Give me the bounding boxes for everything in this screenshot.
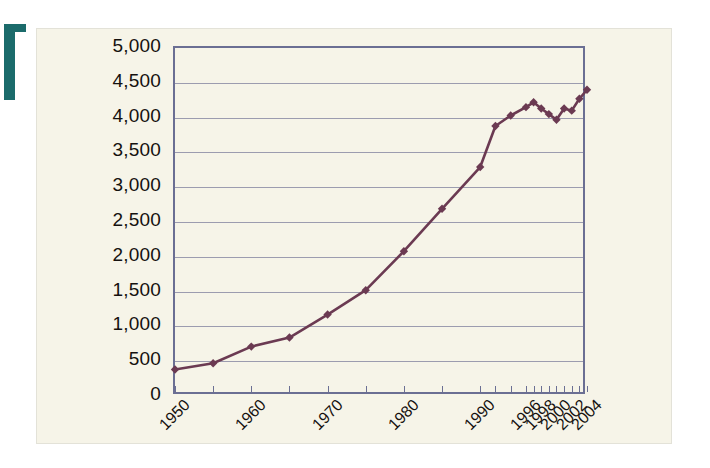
x-axis-tick-label: 1990 [461,396,499,434]
bracket-vertical-bar [4,24,15,100]
x-axis-tick-label: 1970 [308,396,346,434]
bracket-top-bar [4,24,26,32]
data-point-marker [209,359,217,367]
x-axis-tick-label: 1980 [385,396,423,434]
chart-panel: 5,0004,5004,0003,5003,0002,5002,0001,500… [36,28,672,444]
data-point-marker [171,365,179,373]
y-axis-tick-label: 1,000 [112,313,161,335]
y-axis-tick-label: 0 [150,383,161,405]
line-series [175,48,587,396]
plot-area [173,46,585,394]
y-axis-tick-label: 5,000 [112,35,161,57]
y-axis-tick-label: 3,000 [112,174,161,196]
x-axis-tick [587,386,588,392]
teal-bracket-mark [4,24,26,100]
y-axis-tick-label: 1,500 [112,279,161,301]
chart-screenshot: 5,0004,5004,0003,5003,0002,5002,0001,500… [0,0,710,468]
y-axis-tick-label: 2,000 [112,244,161,266]
y-axis-tick-label: 3,500 [112,139,161,161]
y-axis-tick-label: 500 [129,348,161,370]
y-axis-tick-label: 4,500 [112,70,161,92]
x-axis-labels: 1950196019701980199019961998200020022004 [173,396,585,466]
y-axis-tick-label: 4,000 [112,105,161,127]
series-line [175,90,587,370]
y-axis-labels: 5,0004,5004,0003,5003,0002,5002,0001,500… [37,29,169,411]
x-axis-tick-label: 1960 [232,396,270,434]
y-axis-tick-label: 2,500 [112,209,161,231]
data-point-marker [247,342,255,350]
